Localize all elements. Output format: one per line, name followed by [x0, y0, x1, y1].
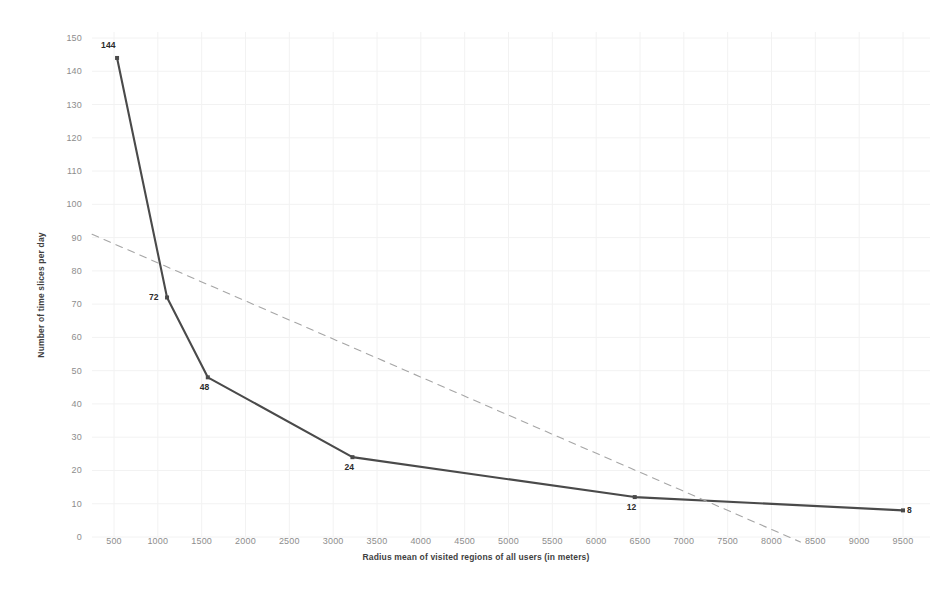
gridlines	[92, 32, 930, 537]
data-point-marker	[901, 508, 905, 512]
x-axis-tick-label: 4000	[410, 536, 431, 546]
x-axis-tick-label: 5000	[498, 536, 519, 546]
y-axis-tick-label: 30	[56, 432, 82, 442]
data-point-marker	[633, 495, 637, 499]
x-axis-tick-label: 1000	[147, 536, 168, 546]
data-point-label: 24	[344, 462, 354, 472]
y-axis-tick-label: 10	[56, 499, 82, 509]
plot-area	[0, 0, 952, 593]
y-axis-tick-label: 70	[56, 299, 82, 309]
x-axis-tick-label: 7000	[673, 536, 694, 546]
data-point-marker	[350, 455, 354, 459]
x-axis-tick-label: 3500	[367, 536, 388, 546]
data-point-label: 72	[149, 292, 159, 302]
y-axis-tick-label: 0	[56, 532, 82, 542]
x-axis-tick-label: 6500	[630, 536, 651, 546]
series-lines	[92, 58, 903, 542]
y-axis-tick-label: 130	[56, 100, 82, 110]
x-axis-tick-label: 7500	[717, 536, 738, 546]
x-axis-tick-label: 500	[106, 536, 122, 546]
chart-container: 0102030405060708090100110120130140150 50…	[0, 0, 952, 593]
data-point-label: 144	[101, 40, 115, 50]
x-axis-tick-label: 1500	[191, 536, 212, 546]
x-axis-tick-label: 3000	[323, 536, 344, 546]
x-axis-title: Radius mean of visited regions of all us…	[363, 552, 590, 562]
data-point-marker	[115, 56, 119, 60]
y-axis-tick-label: 90	[56, 233, 82, 243]
y-axis-tick-label: 140	[56, 66, 82, 76]
data-point-markers	[115, 56, 905, 512]
y-axis-title: Number of time slices per day	[36, 232, 46, 357]
x-axis-tick-label: 4500	[454, 536, 475, 546]
y-axis-tick-label: 20	[56, 465, 82, 475]
y-axis-tick-label: 120	[56, 133, 82, 143]
y-axis-tick-label: 40	[56, 399, 82, 409]
data-point-marker	[165, 295, 169, 299]
y-axis-tick-label: 80	[56, 266, 82, 276]
y-axis-tick-label: 50	[56, 366, 82, 376]
x-axis-tick-label: 6000	[586, 536, 607, 546]
y-axis-tick-label: 150	[56, 33, 82, 43]
data-point-marker	[206, 375, 210, 379]
trendline	[92, 234, 800, 542]
data-point-label: 12	[627, 502, 637, 512]
y-axis-tick-label: 110	[56, 166, 82, 176]
y-axis-tick-label: 100	[56, 199, 82, 209]
x-axis-tick-label: 2000	[235, 536, 256, 546]
x-axis-tick-label: 9500	[893, 536, 914, 546]
y-axis-tick-label: 60	[56, 332, 82, 342]
data-point-label: 48	[200, 382, 210, 392]
x-axis-tick-label: 2500	[279, 536, 300, 546]
data-series-line	[117, 58, 903, 510]
x-axis-tick-label: 9000	[849, 536, 870, 546]
x-axis-tick-label: 8500	[805, 536, 826, 546]
x-axis-tick-label: 5500	[542, 536, 563, 546]
data-point-label: 8	[907, 505, 912, 515]
x-axis-tick-label: 8000	[761, 536, 782, 546]
